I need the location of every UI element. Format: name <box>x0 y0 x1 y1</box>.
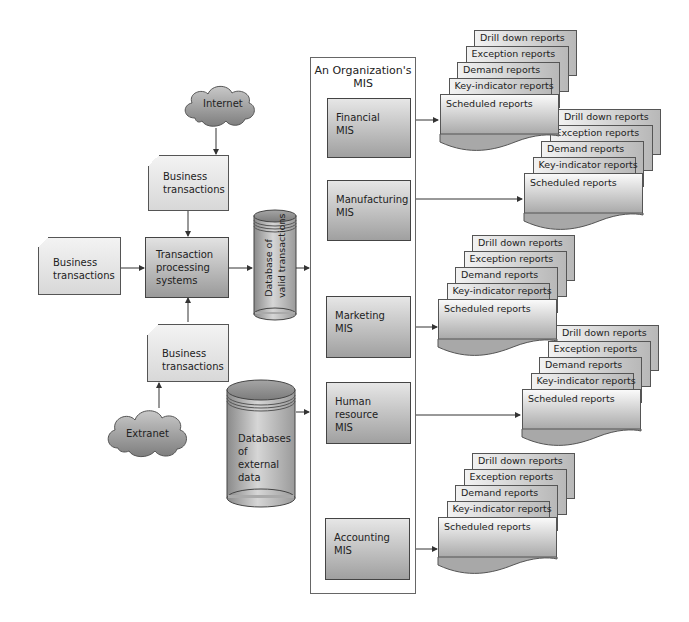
report-wave-financial <box>440 134 559 150</box>
report-wave-human-resource <box>522 429 641 445</box>
report-wave-layer <box>0 0 689 622</box>
report-wave-manufacturing <box>524 213 643 229</box>
report-wave-marketing <box>438 339 557 355</box>
report-wave-accounting <box>438 557 557 573</box>
